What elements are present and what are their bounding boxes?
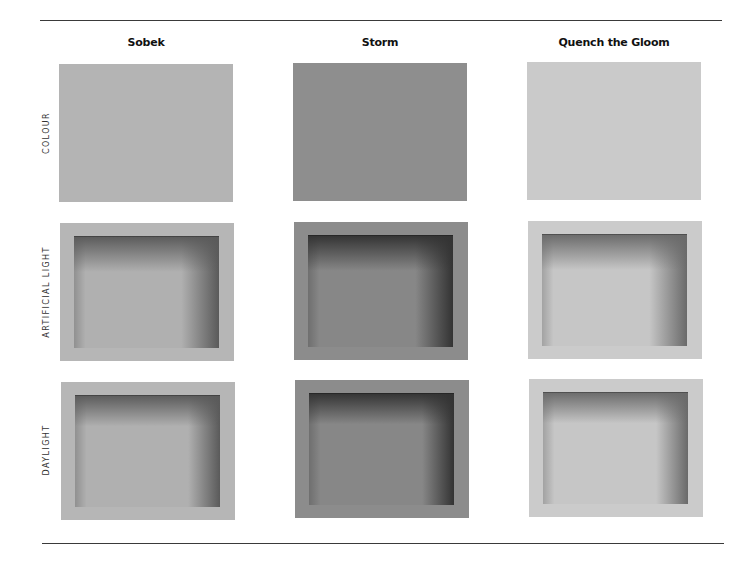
niche-interior bbox=[75, 395, 220, 507]
daylight-sample-sobek bbox=[61, 382, 235, 520]
niche-interior bbox=[74, 236, 219, 348]
column-heading-quench-the-gloom: Quench the Gloom bbox=[527, 36, 701, 49]
row-label-text: COLOUR bbox=[42, 112, 51, 154]
colour-swatch-storm bbox=[293, 63, 467, 201]
daylight-sample-storm bbox=[295, 380, 469, 518]
daylight-sample-quench-the-gloom bbox=[529, 379, 703, 517]
top-divider bbox=[40, 20, 722, 21]
bottom-divider bbox=[42, 543, 724, 544]
column-heading-storm: Storm bbox=[293, 36, 467, 49]
row-label-text: DAYLIGHT bbox=[42, 425, 51, 476]
colour-swatch-sobek bbox=[59, 64, 233, 202]
column-heading-sobek: Sobek bbox=[59, 36, 233, 49]
colour-swatch-quench-the-gloom bbox=[527, 62, 701, 200]
niche-interior bbox=[543, 392, 688, 504]
artificial-light-sample-quench-the-gloom bbox=[528, 221, 702, 359]
niche-interior bbox=[542, 234, 687, 346]
row-label-text: ARTIFICIAL LIGHT bbox=[42, 246, 51, 337]
artificial-light-sample-storm bbox=[294, 222, 468, 360]
artificial-light-sample-sobek bbox=[60, 223, 234, 361]
niche-interior bbox=[309, 393, 454, 505]
niche-interior bbox=[308, 235, 453, 347]
